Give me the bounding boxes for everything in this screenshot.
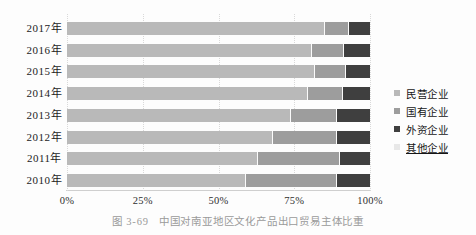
x-tick-label-25: 25% xyxy=(121,195,165,206)
figure-number: 图 3-69 xyxy=(112,216,149,227)
year-label-2017: 2017年 xyxy=(8,22,62,35)
bar-segment-外资企业 xyxy=(343,87,370,100)
legend-swatch-icon xyxy=(394,126,400,132)
bar-segment-民营企业 xyxy=(67,109,291,122)
year-label-2010: 2010年 xyxy=(8,174,62,187)
bar-row-2017 xyxy=(67,22,370,35)
legend-label: 民营企业 xyxy=(406,86,448,101)
year-label-2011: 2011年 xyxy=(8,152,62,165)
bar-segment-民营企业 xyxy=(67,87,308,100)
bar-row-2012 xyxy=(67,131,370,144)
x-tick-label-75: 75% xyxy=(272,195,316,206)
bar-segment-国有企业 xyxy=(312,44,344,57)
year-label-2013: 2013年 xyxy=(8,109,62,122)
bar-segment-民营企业 xyxy=(67,152,258,165)
legend-label: 国有企业 xyxy=(406,104,448,119)
legend-label: 外资企业 xyxy=(406,122,448,137)
bar-segment-国有企业 xyxy=(315,65,345,78)
bar-segment-外资企业 xyxy=(349,22,370,35)
x-tick-label-100: 100% xyxy=(348,195,392,206)
year-label-2015: 2015年 xyxy=(8,65,62,78)
bar-segment-国有企业 xyxy=(325,22,349,35)
year-label-2016: 2016年 xyxy=(8,44,62,57)
bar-segment-国有企业 xyxy=(291,109,336,122)
legend-swatch-icon xyxy=(394,108,400,114)
bar-segment-国有企业 xyxy=(258,152,340,165)
bar-row-2015 xyxy=(67,65,370,78)
legend-label: 其他企业 xyxy=(406,140,448,155)
legend-item-外资企业: 外资企业 xyxy=(394,120,448,138)
x-tick-label-50: 50% xyxy=(197,195,241,206)
bar-row-2014 xyxy=(67,87,370,100)
bar-segment-民营企业 xyxy=(67,65,315,78)
legend: 民营企业国有企业外资企业其他企业 xyxy=(394,84,448,156)
bar-segment-民营企业 xyxy=(67,22,325,35)
bar-segment-国有企业 xyxy=(273,131,337,144)
bar-row-2011 xyxy=(67,152,370,165)
legend-swatch-icon xyxy=(394,90,400,96)
legend-item-民营企业: 民营企业 xyxy=(394,84,448,102)
bar-segment-国有企业 xyxy=(246,174,337,187)
bar-row-2016 xyxy=(67,44,370,57)
bar-segment-民营企业 xyxy=(67,44,312,57)
bar-segment-外资企业 xyxy=(337,109,370,122)
legend-item-国有企业: 国有企业 xyxy=(394,102,448,120)
bar-segment-外资企业 xyxy=(337,174,370,187)
year-label-2012: 2012年 xyxy=(8,131,62,144)
bar-segment-民营企业 xyxy=(67,131,273,144)
bar-segment-国有企业 xyxy=(308,87,343,100)
bar-row-2013 xyxy=(67,109,370,122)
legend-swatch-icon xyxy=(394,144,400,150)
figure-caption: 图 3-69中国对南亚地区文化产品出口贸易主体比重 xyxy=(0,213,476,228)
figure-title: 中国对南亚地区文化产品出口贸易主体比重 xyxy=(159,216,364,227)
figure-3-69: 0%25%50%75%100%2017年2016年2015年2014年2013年… xyxy=(0,0,476,235)
bar-segment-外资企业 xyxy=(340,152,370,165)
legend-item-其他企业: 其他企业 xyxy=(394,138,448,156)
bar-segment-外资企业 xyxy=(344,44,370,57)
bar-segment-外资企业 xyxy=(346,65,370,78)
bar-row-2010 xyxy=(67,174,370,187)
gridline-100 xyxy=(370,14,371,191)
bar-segment-外资企业 xyxy=(337,131,370,144)
x-tick-label-0: 0% xyxy=(45,195,89,206)
bar-segment-民营企业 xyxy=(67,174,246,187)
year-label-2014: 2014年 xyxy=(8,87,62,100)
